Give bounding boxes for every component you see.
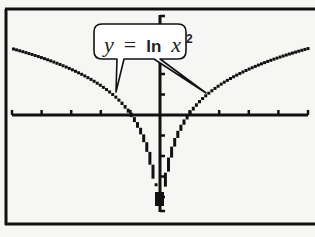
- function-label-callout: y = ln x 2: [94, 24, 206, 93]
- calculator-screen: y = ln x 2: [0, 0, 315, 237]
- graph-canvas: y = ln x 2: [0, 0, 315, 237]
